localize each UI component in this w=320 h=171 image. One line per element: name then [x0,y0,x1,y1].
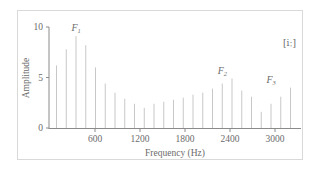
spectrum-chart: 0510 6001200180024003000 F1F2F3 Frequenc… [0,0,320,171]
formant-labels: F1F2F3 [71,22,277,86]
formant-label-f3: F3 [266,74,277,86]
y-ticks: 0510 [34,22,50,133]
formant-label-f2: F2 [217,65,228,77]
y-axis-title: Amplitude [21,58,31,99]
y-tick-label: 0 [38,123,43,133]
y-tick-label: 10 [34,22,44,32]
x-axis-title: Frequency (Hz) [145,148,205,159]
harmonic-bars [57,36,291,128]
axes [49,27,301,129]
vowel-annotation: [iː] [283,38,296,48]
x-tick-label: 1200 [131,134,150,144]
x-tick-label: 600 [88,134,103,144]
y-tick-label: 5 [38,73,43,83]
x-tick-label: 1800 [176,134,195,144]
formant-label-f1: F1 [71,22,81,34]
x-tick-label: 3000 [266,134,285,144]
x-tick-label: 2400 [221,134,240,144]
x-ticks: 6001200180024003000 [88,128,285,144]
